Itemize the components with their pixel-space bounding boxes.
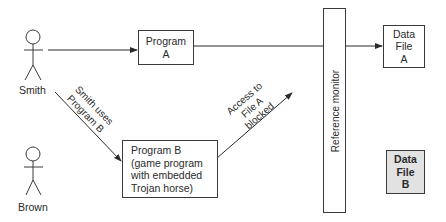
- data-file-a-line-2: File: [396, 40, 413, 53]
- actor-smith-label: Smith: [19, 84, 46, 96]
- program-a-line-2: A: [162, 48, 169, 61]
- data-file-a-line-1: Data: [393, 28, 415, 41]
- program-b-line-3: with embedded: [131, 169, 202, 182]
- brown-figure-icon: [24, 147, 43, 195]
- smith-figure-icon: [24, 30, 43, 80]
- reference-monitor-label: Reference monitor: [329, 69, 340, 151]
- data-file-b-line-3: B: [402, 178, 410, 191]
- program-b-line-4: Trojan horse): [131, 182, 193, 195]
- data-file-b-line-2: File: [396, 166, 414, 179]
- data-file-b-box: Data File B: [386, 150, 425, 194]
- program-b-line-2: (game program: [131, 157, 203, 170]
- program-a-line-1: Program: [146, 35, 186, 48]
- data-file-b-line-1: Data: [394, 153, 417, 166]
- actor-brown-label: Brown: [18, 201, 48, 213]
- program-a-box: Program A: [138, 30, 194, 65]
- program-b-box: Program B (game program with embedded Tr…: [122, 140, 218, 198]
- program-b-line-1: Program B: [131, 144, 181, 157]
- data-file-a-box: Data File A: [383, 25, 425, 68]
- reference-monitor-box: Reference monitor: [323, 8, 346, 213]
- data-file-a-line-3: A: [400, 53, 407, 66]
